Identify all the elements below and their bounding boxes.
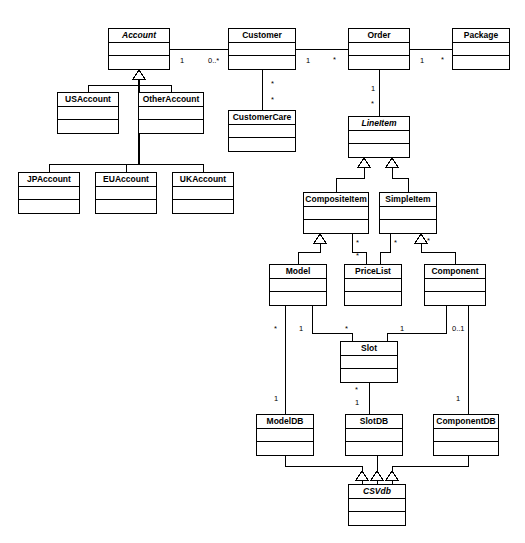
uml-class-operations-euaccount — [96, 200, 156, 213]
generalization-arrow-component — [415, 234, 427, 243]
uml-class-name-modeldb: ModelDB — [257, 415, 313, 429]
multiplicity-m-package-star: * — [441, 56, 444, 64]
multiplicity-m-simple-pl-b: * — [427, 237, 430, 245]
uml-class-attributes-compositeitem — [304, 207, 368, 220]
uml-class-attributes-customer — [229, 43, 295, 56]
uml-class-name-order: Order — [349, 29, 409, 43]
uml-class-simpleitem[interactable]: SimpleItem — [379, 192, 437, 234]
uml-class-name-csvdb: CSVdb — [349, 485, 405, 499]
generalization-arrow-model — [314, 234, 326, 243]
multiplicity-m-componentdb-1: 1 — [456, 395, 460, 403]
uml-class-csvdb[interactable]: CSVdb — [348, 484, 406, 526]
uml-class-otheraccount[interactable]: OtherAccount — [138, 92, 204, 134]
edge-simpleitem-generalization — [392, 167, 408, 192]
uml-class-attributes-otheraccount — [139, 107, 203, 120]
generalization-arrow-modeldb — [356, 471, 368, 480]
uml-class-customer[interactable]: Customer — [228, 28, 296, 70]
uml-class-customercare[interactable]: CustomerCare — [228, 110, 296, 152]
uml-class-name-package: Package — [453, 29, 509, 43]
uml-class-model[interactable]: Model — [269, 264, 327, 306]
multiplicity-m-customer-0n: 0..* — [208, 57, 219, 65]
uml-class-operations-modeldb — [257, 442, 313, 455]
uml-class-name-euaccount: EUAccount — [96, 173, 156, 187]
multiplicity-m-order-star: * — [333, 56, 336, 64]
uml-class-attributes-componentdb — [434, 429, 498, 442]
uml-class-operations-lineitem — [349, 144, 409, 157]
uml-class-attributes-pricelist — [345, 279, 401, 292]
multiplicity-m-order-line-1: 1 — [371, 85, 375, 93]
uml-class-jpaccount[interactable]: JPAccount — [18, 172, 80, 214]
uml-class-attributes-usaccount — [58, 107, 118, 120]
uml-class-name-componentdb: ComponentDB — [434, 415, 498, 429]
uml-class-attributes-customercare — [229, 125, 295, 138]
uml-class-attributes-simpleitem — [380, 207, 436, 220]
uml-class-order[interactable]: Order — [348, 28, 410, 70]
multiplicity-m-customer-1: 1 — [306, 57, 310, 65]
multiplicity-m-comp-pl-b: * — [356, 252, 359, 260]
uml-class-operations-compositeitem — [304, 220, 368, 233]
multiplicity-m-cust-care-b: * — [271, 96, 274, 104]
uml-class-operations-csvdb — [349, 512, 405, 525]
uml-class-compositeitem[interactable]: CompositeItem — [303, 192, 369, 234]
generalization-arrow-account — [133, 70, 145, 79]
uml-class-attributes-modeldb — [257, 429, 313, 442]
uml-class-pricelist[interactable]: PriceList — [344, 264, 402, 306]
uml-class-account[interactable]: Account — [108, 28, 170, 70]
uml-class-operations-pricelist — [345, 292, 401, 305]
multiplicity-m-slotdb-1: 1 — [355, 399, 359, 407]
multiplicity-m-comp-pl-a: * — [356, 239, 359, 247]
edge-component-slot — [387, 306, 446, 341]
uml-class-attributes-order — [349, 43, 409, 56]
uml-class-attributes-ukaccount — [173, 187, 233, 200]
uml-class-operations-usaccount — [58, 120, 118, 133]
uml-class-operations-slot — [341, 369, 397, 382]
uml-class-name-usaccount: USAccount — [58, 93, 118, 107]
uml-class-ukaccount[interactable]: UKAccount — [172, 172, 234, 214]
uml-class-attributes-slot — [341, 356, 397, 369]
uml-class-package[interactable]: Package — [452, 28, 510, 70]
uml-class-attributes-component — [425, 279, 485, 292]
uml-class-name-component: Component — [425, 265, 485, 279]
uml-class-name-lineitem: LineItem — [349, 117, 409, 131]
uml-class-name-jpaccount: JPAccount — [19, 173, 79, 187]
uml-class-name-simpleitem: SimpleItem — [380, 193, 436, 207]
uml-class-modeldb[interactable]: ModelDB — [256, 414, 314, 456]
uml-class-componentdb[interactable]: ComponentDB — [433, 414, 499, 456]
uml-class-operations-customercare — [229, 138, 295, 151]
uml-class-name-pricelist: PriceList — [345, 265, 401, 279]
uml-class-component[interactable]: Component — [424, 264, 486, 306]
edge-simpleitem-pricelist — [380, 234, 390, 264]
uml-class-name-account: Account — [109, 29, 169, 43]
edge-compositeitem-pricelist — [352, 234, 366, 264]
uml-class-usaccount[interactable]: USAccount — [57, 92, 119, 134]
uml-class-operations-order — [349, 56, 409, 69]
multiplicity-m-slot-right-1: 1 — [400, 325, 404, 333]
edge-component-generalization — [421, 243, 455, 264]
uml-class-operations-ukaccount — [173, 200, 233, 213]
uml-class-name-customercare: CustomerCare — [229, 111, 295, 125]
uml-class-name-otheraccount: OtherAccount — [139, 93, 203, 107]
uml-class-operations-simpleitem — [380, 220, 436, 233]
uml-class-name-slotdb: SlotDB — [346, 415, 402, 429]
multiplicity-m-modeldb-1: 1 — [274, 395, 278, 403]
edge-model-generalization — [298, 243, 320, 264]
uml-class-diagram: AccountCustomerOrderPackageUSAccountOthe… — [0, 0, 525, 543]
uml-class-attributes-package — [453, 43, 509, 56]
uml-class-operations-account — [109, 56, 169, 69]
edge-compositeitem-generalization — [336, 167, 364, 192]
multiplicity-m-order-1: 1 — [420, 57, 424, 65]
multiplicity-m-cust-care-a: * — [271, 80, 274, 88]
uml-class-attributes-model — [270, 279, 326, 292]
generalization-arrow-componentdb — [386, 471, 398, 480]
uml-class-lineitem[interactable]: LineItem — [348, 116, 410, 158]
uml-class-attributes-account — [109, 43, 169, 56]
uml-class-name-compositeitem: CompositeItem — [304, 193, 368, 207]
uml-class-slot[interactable]: Slot — [340, 341, 398, 383]
uml-class-name-customer: Customer — [229, 29, 295, 43]
uml-class-operations-component — [425, 292, 485, 305]
uml-class-euaccount[interactable]: EUAccount — [95, 172, 157, 214]
uml-class-slotdb[interactable]: SlotDB — [345, 414, 403, 456]
uml-class-operations-customer — [229, 56, 295, 69]
generalization-arrow-simpleitem — [386, 158, 398, 167]
multiplicity-m-model-1: 1 — [299, 325, 303, 333]
